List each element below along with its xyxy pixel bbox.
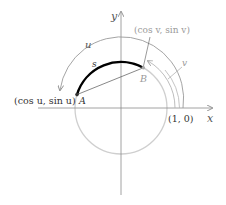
unit-circle-diagram: y x (1, 0) (cos v, sin v) B (cos u, sin … (0, 0, 226, 205)
arc-u-label: u (85, 39, 91, 50)
point-b (142, 66, 146, 70)
point-a-name: A (78, 95, 86, 106)
arc-v-label: v (182, 58, 187, 68)
x-axis-label: x (207, 112, 214, 125)
unit-point-label: (1, 0) (168, 113, 194, 124)
y-axis-label: y (110, 10, 118, 23)
point-b-coord-label: (cos v, sin v) (134, 25, 190, 35)
point-b-name: B (139, 73, 147, 84)
arc-s (77, 62, 143, 95)
arc-v (148, 61, 175, 108)
point-a-coord-label: (cos u, sin u) (14, 95, 76, 106)
arc-s-label: s (92, 59, 97, 69)
chord-ab (77, 68, 143, 95)
